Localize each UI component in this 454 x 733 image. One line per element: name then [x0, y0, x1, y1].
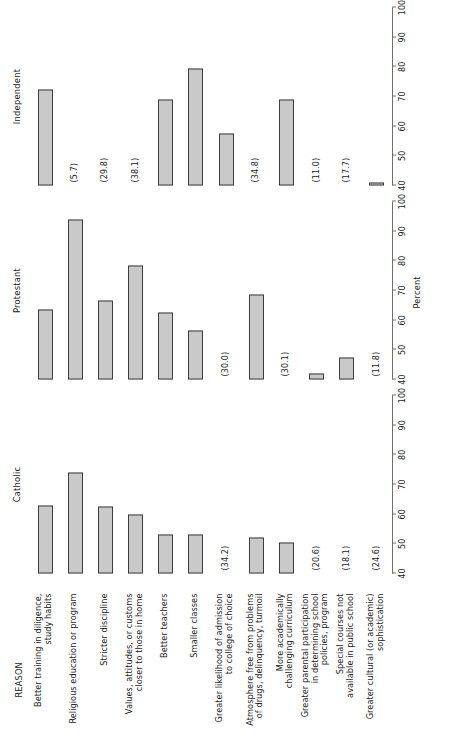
category-label-line: challenging curriculum	[285, 593, 295, 733]
category-label: Values, attitudes, or customscloser to t…	[125, 593, 144, 733]
x-axis-tick-label: 50	[398, 144, 407, 166]
x-axis-tick-label: 70	[398, 473, 407, 495]
category-label: Better training in diligence,study habit…	[34, 593, 53, 733]
bar	[38, 89, 53, 185]
x-axis-tick	[392, 424, 396, 425]
x-axis-tick-label: 50	[398, 532, 407, 554]
bar	[38, 505, 53, 573]
category-label: Smaller classes	[190, 593, 200, 733]
below-axis-value-label: (20.6)	[312, 545, 321, 570]
bar	[158, 312, 173, 379]
x-axis-tick	[392, 483, 396, 484]
bar	[188, 68, 203, 185]
category-label-line: Better teachers	[160, 593, 170, 733]
category-label: Better teachers	[160, 593, 170, 733]
category-label: Religious education or program	[69, 593, 79, 733]
panel-title: Independent	[12, 7, 22, 185]
category-label-line: available in public school	[346, 593, 356, 733]
category-label-line: Religious education or program	[69, 593, 79, 733]
bar	[128, 514, 143, 573]
category-label: More academicallychallenging curriculum	[276, 593, 295, 733]
bar	[219, 133, 234, 185]
x-axis-tick-label: 80	[398, 443, 407, 465]
below-axis-value-label: (30.0)	[221, 351, 230, 376]
bar	[188, 330, 203, 379]
rotated-figure-frame: Better training in diligence,study habit…	[0, 0, 454, 733]
panel-independent: Independent405060708090100(5.7)(29.8)(38…	[0, 7, 454, 185]
below-axis-value-label: (24.6)	[372, 545, 381, 570]
bar	[158, 534, 173, 573]
x-axis-tick	[392, 453, 396, 454]
bar	[309, 373, 324, 379]
bar	[68, 219, 83, 379]
category-label-line: study habits	[44, 593, 54, 733]
x-axis-tick-label: 100	[398, 0, 407, 18]
x-axis-tick-label: 90	[398, 26, 407, 48]
category-label: Special courses notavailable in public s…	[336, 593, 355, 733]
baseline	[30, 184, 392, 185]
x-axis-tick-label: 70	[398, 279, 407, 301]
x-axis-tick	[392, 378, 396, 379]
bar	[188, 534, 203, 573]
category-label: Greater likelihood of admissionto colleg…	[215, 593, 234, 733]
category-label: Stricter discipline	[100, 593, 110, 733]
below-axis-value-label: (38.1)	[131, 157, 140, 182]
below-axis-value-label: (34.8)	[251, 157, 260, 182]
bar	[339, 357, 354, 379]
x-axis-tick	[392, 36, 396, 37]
grouped-bar-chart: Better training in diligence,study habit…	[0, 0, 454, 733]
x-axis-tick-label: 40	[398, 174, 407, 196]
x-axis-tick	[392, 513, 396, 514]
x-axis-tick	[392, 348, 396, 349]
below-axis-value-label: (17.7)	[342, 157, 351, 182]
bar	[98, 506, 113, 573]
x-axis-tick	[392, 125, 396, 126]
panel-protestant: Protestant405060708090100(30.0)(30.1)(11…	[0, 201, 454, 379]
x-axis-title: Percent	[412, 276, 422, 308]
x-axis-tick-label: 60	[398, 115, 407, 137]
x-axis-tick	[392, 184, 396, 185]
below-axis-value-label: (29.8)	[100, 157, 109, 182]
panel-title: Protestant	[12, 201, 22, 379]
category-label-line: sophistication	[376, 593, 386, 733]
x-axis-tick	[392, 6, 396, 7]
x-axis-tick-label: 70	[398, 85, 407, 107]
bar	[158, 99, 173, 185]
bar	[279, 99, 294, 185]
category-label-line: Stricter discipline	[100, 593, 110, 733]
chart-panels: Better training in diligence,study habit…	[0, 0, 454, 733]
x-axis-tick-label: 40	[398, 562, 407, 584]
below-axis-value-label: (30.1)	[281, 351, 290, 376]
x-axis-tick	[392, 230, 396, 231]
x-axis-tick	[392, 65, 396, 66]
x-axis-tick-label: 40	[398, 368, 407, 390]
x-axis-tick	[392, 289, 396, 290]
x-axis-tick	[392, 319, 396, 320]
category-label: Greater parental participationin determi…	[301, 593, 330, 733]
x-axis-tick-label: 80	[398, 55, 407, 77]
panel-catholic: Catholic405060708090100(34.2)(20.6)(18.1…	[0, 395, 454, 573]
x-axis-tick-label: 80	[398, 249, 407, 271]
x-axis-tick	[392, 154, 396, 155]
x-axis-tick	[392, 200, 396, 201]
baseline	[30, 572, 392, 573]
bar	[279, 542, 294, 573]
x-axis-tick	[392, 542, 396, 543]
x-axis-tick-label: 60	[398, 503, 407, 525]
x-axis-tick	[392, 259, 396, 260]
category-label-line: closer to those in home	[135, 593, 145, 733]
x-axis-tick-label: 90	[398, 414, 407, 436]
x-axis-tick-label: 60	[398, 309, 407, 331]
below-axis-value-label: (18.1)	[342, 545, 351, 570]
category-label-line: to college of choice	[225, 593, 235, 733]
x-axis-tick	[392, 95, 396, 96]
bar	[249, 294, 264, 379]
category-label-line: Smaller classes	[190, 593, 200, 733]
reason-axis-header: REASON	[14, 662, 24, 697]
category-label-line: policies, program	[320, 593, 330, 733]
bar	[249, 537, 264, 573]
bar	[369, 182, 384, 185]
bar	[38, 309, 53, 379]
bar	[68, 472, 83, 573]
bar	[98, 300, 113, 379]
